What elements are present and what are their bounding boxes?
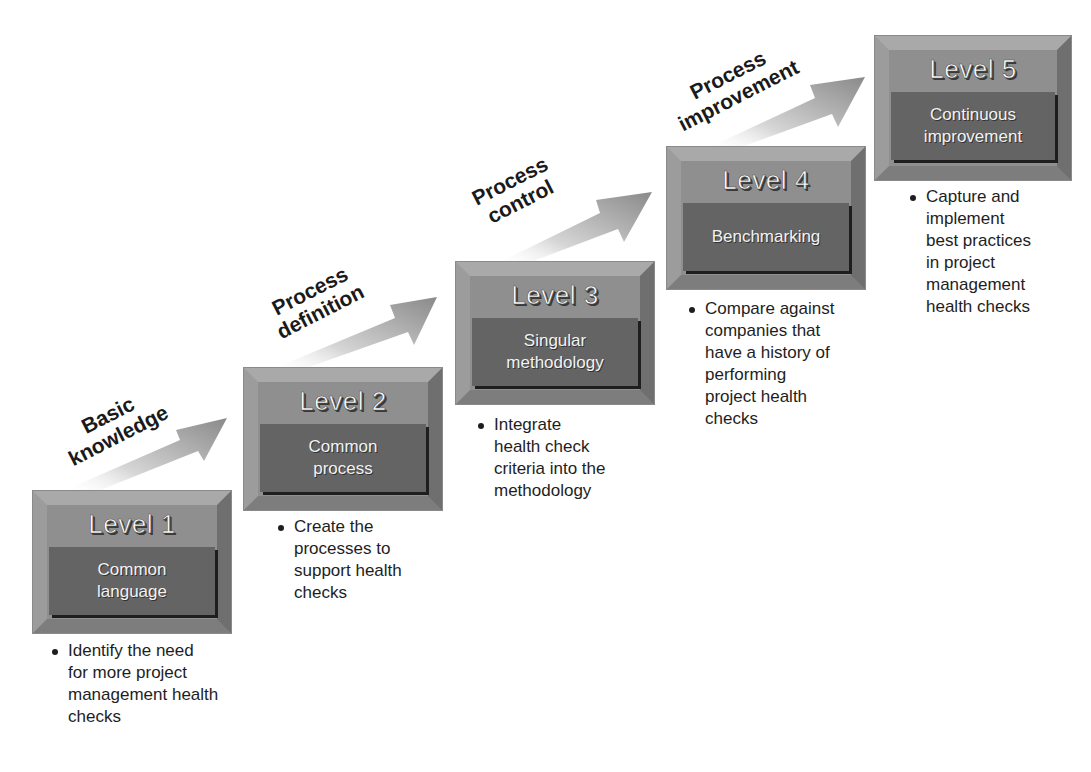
level-2-box: Level 2 Common process: [244, 368, 442, 510]
bullet-icon: [478, 423, 484, 429]
bullet-icon: [278, 525, 284, 531]
level-title: Level 4: [681, 165, 851, 196]
level-3-box: Level 3 Singular methodology: [456, 262, 654, 404]
transition-label-basic-knowledge: Basic knowledge: [36, 370, 191, 479]
level-1-description: Identify the need for more project manag…: [50, 640, 270, 728]
level-5-box: Level 5 Continuous improvement: [875, 36, 1071, 180]
transition-label-process-definition: Process definition: [238, 246, 393, 355]
level-title: Level 1: [47, 509, 217, 540]
level-5-description: Capture and implement best practices in …: [908, 186, 1088, 318]
level-3-description: Integrate health check criteria into the…: [476, 414, 656, 502]
level-name-panel: Singular methodology: [472, 318, 638, 386]
transition-label-process-control: Process control: [451, 143, 579, 238]
level-title: Level 5: [889, 54, 1057, 85]
bullet-icon: [910, 195, 916, 201]
maturity-model-diagram: Basic knowledge Process definition Proce…: [0, 0, 1091, 772]
level-name-panel: Continuous improvement: [891, 92, 1055, 160]
level-2-description: Create the processes to support health c…: [276, 516, 456, 604]
level-name-panel: Benchmarking: [683, 203, 849, 271]
bullet-icon: [52, 649, 58, 655]
level-4-box: Level 4 Benchmarking: [667, 147, 865, 289]
level-4-description: Compare against companies that have a hi…: [687, 298, 877, 430]
level-title: Level 2: [258, 386, 428, 417]
level-title: Level 3: [470, 280, 640, 311]
level-1-box: Level 1 Common language: [33, 491, 231, 633]
level-name-panel: Common process: [260, 424, 426, 492]
level-name-panel: Common language: [49, 547, 215, 615]
bullet-icon: [689, 307, 695, 313]
transition-label-process-improvement: Process improvement: [656, 30, 811, 139]
